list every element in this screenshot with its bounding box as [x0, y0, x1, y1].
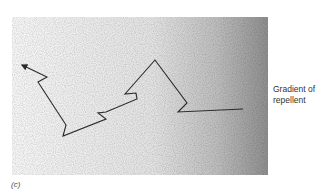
panel-label: (c)	[11, 179, 20, 190]
gradient-label: Gradient of repellent	[273, 84, 315, 106]
stipple-texture	[12, 17, 268, 175]
gradient-label-line2: repellent	[273, 95, 315, 106]
gradient-label-line1: Gradient of	[273, 84, 315, 95]
